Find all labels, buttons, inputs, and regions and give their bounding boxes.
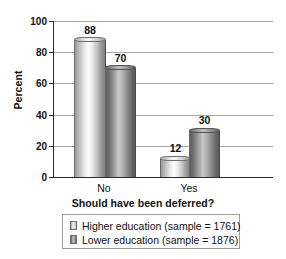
x-axis-line <box>53 177 273 178</box>
chart-legend: Higher education (sample = 1761) Lower e… <box>62 214 240 249</box>
bar-cap <box>74 37 106 42</box>
y-tick-mark-100 <box>49 21 53 22</box>
y-tick-label-80: 80 <box>36 47 47 58</box>
bar-yes-lower: 30 <box>189 130 220 177</box>
legend-swatch-icon-lower <box>70 235 77 244</box>
legend-label-higher: Higher education (sample = 1761) <box>82 220 240 232</box>
gridline-100 <box>54 21 273 22</box>
legend-swatch-icon-higher <box>70 221 77 230</box>
y-tick-mark-40 <box>49 115 53 116</box>
y-tick-label-60: 60 <box>36 78 47 89</box>
y-axis-title: Percent <box>12 50 24 130</box>
y-axis-line <box>53 21 54 178</box>
y-tick-mark-20 <box>49 146 53 147</box>
bar-cap <box>105 65 136 70</box>
y-tick-mark-80 <box>49 52 53 53</box>
y-tick-mark-0 <box>49 177 53 178</box>
legend-item-lower-education: Lower education (sample = 1876) <box>70 233 239 246</box>
x-axis-title: Should have been deferred? <box>0 197 286 209</box>
x-category-label-yes: Yes <box>180 182 197 194</box>
bar-no-higher: 88 <box>74 40 106 177</box>
plot-area: 100 80 60 40 20 0 88 70 <box>53 21 273 178</box>
bar-value-yes-lower: 30 <box>199 114 211 126</box>
y-tick-mark-60 <box>49 83 53 84</box>
y-tick-label-100: 100 <box>30 16 47 27</box>
bar-chart: Percent 100 80 60 40 20 <box>0 0 286 259</box>
bar-cap <box>189 128 220 133</box>
bar-yes-higher: 12 <box>160 158 191 177</box>
bar-cap <box>160 156 191 161</box>
bar-value-no-higher: 88 <box>84 24 96 36</box>
y-tick-label-0: 0 <box>41 172 47 183</box>
legend-label-lower: Lower education (sample = 1876) <box>82 234 238 246</box>
bar-value-yes-higher: 12 <box>170 142 182 154</box>
x-category-label-no: No <box>97 182 110 194</box>
y-tick-label-20: 20 <box>36 140 47 151</box>
y-tick-label-40: 40 <box>36 109 47 120</box>
bar-no-lower: 70 <box>105 68 136 177</box>
legend-item-higher-education: Higher education (sample = 1761) <box>70 219 239 232</box>
bar-value-no-lower: 70 <box>115 52 127 64</box>
